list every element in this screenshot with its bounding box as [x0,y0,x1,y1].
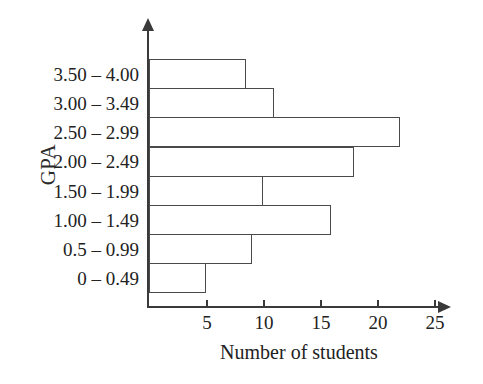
bar [149,88,274,118]
y-axis-tick-label: 3.00 – 3.49 [40,89,143,118]
bar-row [149,264,449,293]
x-axis-line [147,306,440,308]
bar [149,205,331,235]
bar-series [149,60,449,293]
bar [149,59,246,89]
x-axis-tick-label: 25 [415,312,455,334]
x-axis-tick [377,300,379,308]
bar [149,176,263,206]
bar-row [149,206,449,235]
y-axis-tick-label: 0.5 – 0.99 [40,235,143,264]
bar [149,147,354,177]
x-axis-title: Number of students [149,341,449,364]
bar-row [149,235,449,264]
y-axis-line [147,28,149,308]
y-axis-tick-labels: 3.50 – 4.00 3.00 – 3.49 2.50 – 2.99 2.00… [40,60,143,293]
x-axis-tick-label: 5 [187,312,227,334]
y-axis-tick-label: 1.50 – 1.99 [40,177,143,206]
y-axis-tick-label: 1.00 – 1.49 [40,206,143,235]
x-axis-tick-label: 20 [358,312,398,334]
y-axis-tick-label: 2.50 – 2.99 [40,118,143,147]
bar-row [149,60,449,89]
x-axis-tick [263,300,265,308]
plot-area [149,60,449,293]
x-axis-tick-label: 10 [244,312,284,334]
bar-row [149,118,449,147]
x-axis-tick [206,300,208,308]
x-axis-tick [320,300,322,308]
y-axis-tick-label: 0 – 0.49 [40,264,143,293]
y-axis-tick-label: 3.50 – 4.00 [40,60,143,89]
bar [149,117,400,147]
bar [149,234,252,264]
bar-row [149,89,449,118]
y-axis-tick-label: 2.00 – 2.49 [40,147,143,176]
x-axis-tick-label: 15 [301,312,341,334]
bar [149,263,206,293]
x-axis-tick [434,300,436,308]
bar-row [149,177,449,206]
bar-row [149,147,449,176]
gpa-histogram-chart: GPA 3.50 – 4.00 3.00 – 3.49 2.50 – 2.99 … [0,0,483,384]
